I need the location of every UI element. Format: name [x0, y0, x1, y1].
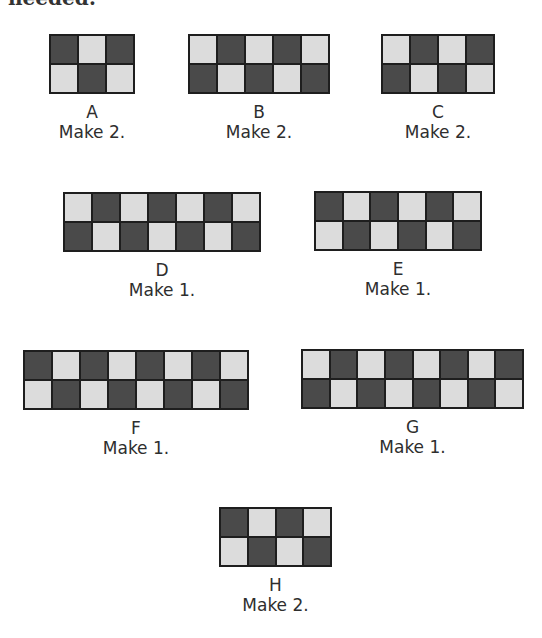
square-dark [221, 381, 247, 408]
square-dark [454, 222, 480, 249]
square-light [109, 352, 135, 379]
square-dark [79, 65, 105, 92]
checkerboard-strip-b [188, 34, 330, 94]
square-light [107, 65, 133, 92]
square-dark [469, 380, 495, 407]
unit-instruction: Make 1. [313, 437, 513, 457]
square-light [249, 509, 275, 536]
unit-instruction: Make 2. [159, 122, 359, 142]
square-light [25, 381, 51, 408]
square-light [53, 352, 79, 379]
square-light [121, 194, 147, 221]
square-dark [218, 36, 244, 63]
square-dark [193, 352, 219, 379]
square-light [303, 351, 329, 378]
square-dark [427, 193, 453, 220]
square-light [383, 36, 409, 63]
square-light [304, 509, 330, 536]
unit-letter: B [159, 102, 359, 122]
checkerboard-strip-h [219, 507, 332, 567]
square-dark [383, 65, 409, 92]
clipped-heading: needed: [8, 0, 96, 10]
unit-instruction: Make 2. [176, 595, 376, 615]
square-dark [165, 381, 191, 408]
square-light [246, 36, 272, 63]
square-light [411, 65, 437, 92]
square-light [467, 65, 493, 92]
square-light [221, 538, 247, 565]
checkerboard-strip-f [23, 350, 249, 410]
unit-letter: D [62, 260, 262, 280]
square-dark [411, 36, 437, 63]
square-light [358, 351, 384, 378]
square-light [496, 380, 522, 407]
square-dark [149, 194, 175, 221]
square-dark [107, 36, 133, 63]
checkerboard-strip-d [63, 192, 261, 252]
square-light [427, 222, 453, 249]
square-dark [441, 351, 467, 378]
square-dark [93, 194, 119, 221]
square-light [439, 36, 465, 63]
square-dark [399, 222, 425, 249]
square-dark [302, 65, 328, 92]
checkerboard-strip-g [301, 349, 524, 409]
square-light [316, 222, 342, 249]
square-light [399, 193, 425, 220]
square-light [371, 222, 397, 249]
square-light [441, 380, 467, 407]
square-light [386, 380, 412, 407]
square-light [193, 381, 219, 408]
square-light [277, 538, 303, 565]
square-light [149, 223, 175, 250]
unit-instruction: Make 2. [338, 122, 538, 142]
square-dark [439, 65, 465, 92]
square-dark [358, 380, 384, 407]
square-dark [316, 193, 342, 220]
square-dark [496, 351, 522, 378]
checkerboard-strip-a [49, 34, 135, 94]
unit-instruction: Make 1. [36, 438, 236, 458]
unit-letter: G [313, 417, 513, 437]
square-light [79, 36, 105, 63]
square-dark [190, 65, 216, 92]
square-dark [81, 352, 107, 379]
square-dark [109, 381, 135, 408]
square-dark [386, 351, 412, 378]
checkerboard-strip-e [314, 191, 482, 251]
square-light [221, 352, 247, 379]
unit-letter: C [338, 102, 538, 122]
square-light [205, 223, 231, 250]
unit-instruction: Make 1. [62, 280, 262, 300]
square-light [414, 351, 440, 378]
square-light [302, 36, 328, 63]
square-dark [137, 352, 163, 379]
square-dark [344, 222, 370, 249]
square-light [165, 352, 191, 379]
square-dark [303, 380, 329, 407]
square-light [218, 65, 244, 92]
unit-letter: E [298, 259, 498, 279]
square-light [81, 381, 107, 408]
square-light [344, 193, 370, 220]
square-dark [233, 223, 259, 250]
square-dark [121, 223, 147, 250]
square-light [454, 193, 480, 220]
square-dark [277, 509, 303, 536]
square-dark [274, 36, 300, 63]
checkerboard-strip-c [381, 34, 495, 94]
square-light [469, 351, 495, 378]
square-light [93, 223, 119, 250]
square-dark [205, 194, 231, 221]
square-dark [53, 381, 79, 408]
square-light [177, 194, 203, 221]
square-dark [246, 65, 272, 92]
square-dark [25, 352, 51, 379]
unit-letter: F [36, 418, 236, 438]
square-dark [221, 509, 247, 536]
square-dark [414, 380, 440, 407]
square-light [331, 380, 357, 407]
square-light [137, 381, 163, 408]
square-light [274, 65, 300, 92]
square-dark [304, 538, 330, 565]
